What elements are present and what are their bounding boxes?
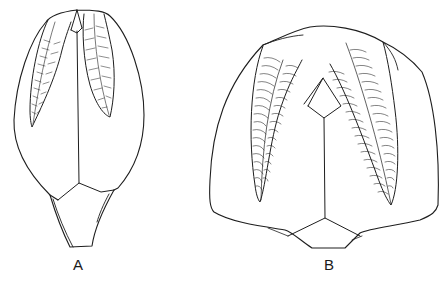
figure-label-b: B: [324, 257, 334, 272]
calyx-a-deltoid: [71, 28, 82, 33]
calyx-b-basal-plate: [288, 218, 360, 236]
illustration-canvas: [0, 0, 448, 282]
calyx-b-ambulacrum-left-midline: [261, 60, 283, 200]
calyx-b-ambulacrum-right-pores: [329, 49, 395, 194]
figure-label-a: A: [73, 257, 83, 272]
calyx-a: [14, 10, 144, 247]
calyx-a-basal-plate: [58, 183, 114, 200]
calyx-b-ambulacrum-left-pores: [253, 58, 298, 191]
calyx-b-central-suture: [324, 118, 325, 218]
calyx-b-deltoid: [308, 78, 341, 118]
calyx-a-ambulacrum-right-midline: [94, 14, 109, 115]
calyx-a-base-inner-left: [53, 199, 73, 247]
calyx-a-deltoid-edge-left: [71, 10, 77, 30]
calyx-a-base-inner-right: [97, 194, 109, 222]
calyx-b-ambulacrum-right: [330, 42, 398, 205]
calyx-b-ambulacrum-left: [251, 46, 302, 202]
calyx-a-deltoid-edge-right: [77, 10, 82, 28]
calyx-a-central-suture: [77, 31, 79, 183]
calyx-a-ambulacrum-left-midline: [33, 22, 55, 124]
calyx-a-ambulacrum-right-pores: [85, 26, 111, 108]
calyx-b-deltoid-apex-left: [304, 78, 323, 104]
calyx-b-ambulacrum-right-midline: [346, 43, 391, 204]
calyx-b: [210, 26, 439, 248]
